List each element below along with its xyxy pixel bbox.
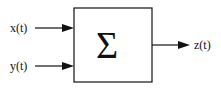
input-label-y: y(t) xyxy=(10,60,27,72)
input-label-x: x(t) xyxy=(10,22,27,34)
input-arrow-x xyxy=(35,24,74,32)
sigma-symbol: Σ xyxy=(96,25,118,65)
input-arrow-y xyxy=(35,62,74,70)
output-label-z: z(t) xyxy=(194,39,211,51)
output-arrow-z xyxy=(152,41,190,49)
